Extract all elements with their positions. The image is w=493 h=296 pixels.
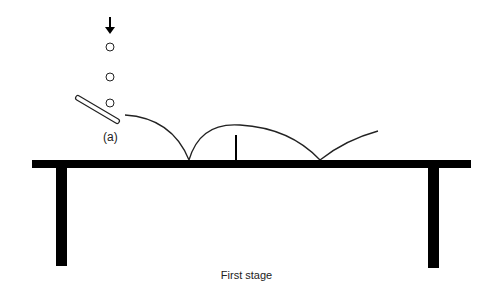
ball-3 bbox=[106, 99, 114, 107]
figure-caption: First stage bbox=[0, 269, 493, 281]
paddle-label: (a) bbox=[103, 130, 118, 144]
down-arrow-icon bbox=[105, 17, 115, 34]
table-leg-right bbox=[428, 166, 439, 268]
table-top bbox=[32, 160, 471, 168]
table-leg-left bbox=[56, 166, 67, 266]
ball-1 bbox=[106, 43, 114, 51]
ball-trajectory bbox=[125, 115, 378, 160]
diagram-canvas bbox=[0, 0, 493, 296]
ball-2 bbox=[106, 73, 114, 81]
